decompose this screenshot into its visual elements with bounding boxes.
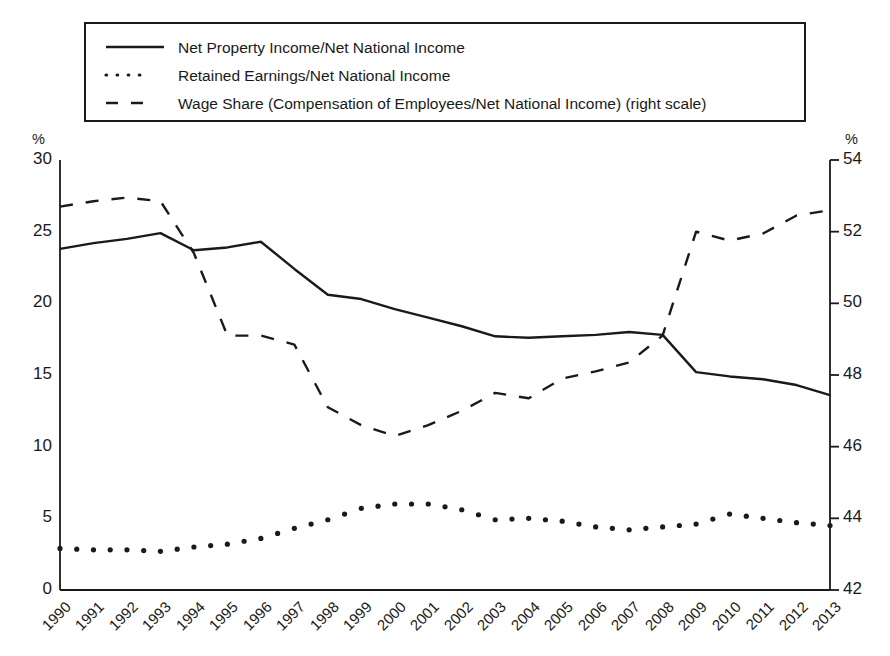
data-point	[225, 542, 230, 547]
data-point	[191, 544, 196, 549]
data-point	[794, 520, 799, 525]
right-axis-tick-42: 42	[843, 579, 889, 599]
left-axis-tick-0: 0	[6, 579, 52, 599]
data-point	[124, 547, 129, 552]
data-point	[57, 546, 62, 551]
data-point	[375, 504, 380, 509]
data-point	[208, 543, 213, 548]
data-point	[827, 523, 832, 528]
data-point	[325, 517, 330, 522]
data-point	[308, 521, 313, 526]
data-point	[141, 548, 146, 553]
data-point	[526, 516, 531, 521]
data-point	[576, 521, 581, 526]
data-point	[543, 517, 548, 522]
data-point	[610, 526, 615, 531]
data-point	[476, 512, 481, 517]
data-point	[175, 547, 180, 552]
data-point	[426, 501, 431, 506]
data-point	[158, 549, 163, 554]
data-point	[442, 504, 447, 509]
left-axis-tick-15: 15	[6, 364, 52, 384]
data-point	[744, 514, 749, 519]
left-axis-tick-25: 25	[6, 221, 52, 241]
data-point	[342, 511, 347, 516]
data-point	[660, 524, 665, 529]
left-axis-tick-10: 10	[6, 436, 52, 456]
series-layer	[57, 198, 832, 554]
data-point	[459, 507, 464, 512]
data-point	[275, 531, 280, 536]
data-point	[727, 511, 732, 516]
data-point	[593, 524, 598, 529]
data-point	[292, 526, 297, 531]
chart-figure: Net Property Income/Net National Income …	[0, 0, 890, 656]
data-point	[760, 516, 765, 521]
left-axis-tick-30: 30	[6, 149, 52, 169]
data-point	[677, 523, 682, 528]
left-axis-tick-5: 5	[6, 507, 52, 527]
data-point	[392, 501, 397, 506]
left-axis-tick-20: 20	[6, 292, 52, 312]
data-point	[811, 521, 816, 526]
series-line-2	[60, 198, 830, 436]
data-point	[108, 547, 113, 552]
data-point	[74, 547, 79, 552]
plot-area	[0, 0, 890, 656]
data-point	[643, 526, 648, 531]
data-point	[777, 518, 782, 523]
data-point	[409, 501, 414, 506]
data-point	[359, 506, 364, 511]
data-point	[710, 516, 715, 521]
right-axis-tick-44: 44	[843, 507, 889, 527]
data-point	[258, 536, 263, 541]
data-point	[560, 519, 565, 524]
data-point	[509, 516, 514, 521]
data-point	[91, 547, 96, 552]
right-axis-tick-46: 46	[843, 436, 889, 456]
data-point	[493, 517, 498, 522]
right-axis-tick-52: 52	[843, 221, 889, 241]
data-point	[693, 521, 698, 526]
series-line-0	[60, 233, 830, 395]
right-axis-tick-54: 54	[843, 149, 889, 169]
data-point	[242, 539, 247, 544]
data-point	[627, 527, 632, 532]
right-axis-tick-50: 50	[843, 292, 889, 312]
right-axis-tick-48: 48	[843, 364, 889, 384]
